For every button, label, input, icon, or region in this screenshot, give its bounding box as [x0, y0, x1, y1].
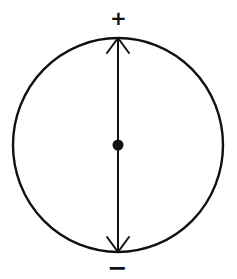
center-dot — [113, 140, 124, 151]
negative-pole-label: − — [107, 256, 127, 279]
positive-pole-label: + — [110, 8, 127, 28]
dipole-diagram — [0, 0, 237, 279]
